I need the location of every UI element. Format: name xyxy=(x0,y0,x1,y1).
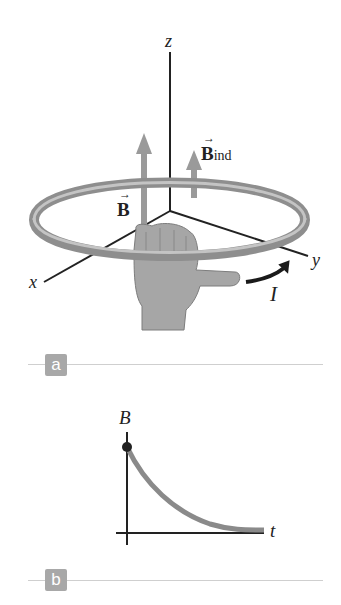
figure-canvas xyxy=(0,0,341,605)
graph-y-label: B xyxy=(119,407,131,429)
panel-b-graph xyxy=(116,432,264,545)
b-field-label: → B xyxy=(117,199,130,221)
y-axis-label: y xyxy=(312,250,320,271)
graph-x-label: t xyxy=(270,520,275,542)
x-axis-label: x xyxy=(29,272,37,293)
b-ind-arrowhead xyxy=(186,150,202,170)
panel-a-tag: a xyxy=(45,354,67,376)
panel-a-diagram xyxy=(34,52,308,330)
right-hand-icon xyxy=(134,224,240,330)
b-field-arrowhead xyxy=(136,133,152,154)
vector-arrow-icon: → xyxy=(119,187,131,202)
decay-curve xyxy=(127,447,264,530)
panel-a-rule xyxy=(28,364,323,365)
z-axis-label: z xyxy=(165,31,172,52)
panel-b-rule xyxy=(28,580,323,581)
vector-arrow-icon: → xyxy=(203,131,215,146)
initial-point xyxy=(122,442,132,452)
b-ind-label: → Bind xyxy=(201,143,232,165)
panel-b-tag: b xyxy=(45,569,67,591)
current-direction-arrow xyxy=(246,268,284,282)
current-label: I xyxy=(270,282,277,307)
